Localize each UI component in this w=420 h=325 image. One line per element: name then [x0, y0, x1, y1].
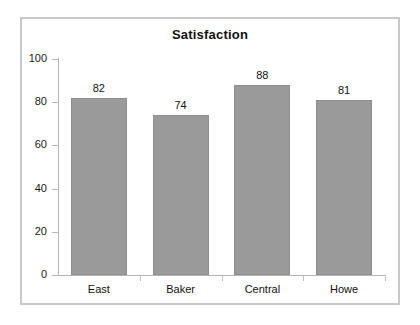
y-axis-tick-mark	[52, 275, 58, 276]
y-axis-tick-label: 100	[29, 52, 47, 64]
y-axis-tick-label: 0	[41, 268, 47, 280]
x-axis-separator-tick	[385, 275, 386, 281]
chart-title: Satisfaction	[22, 27, 398, 42]
x-axis-category-label: Howe	[303, 283, 385, 295]
bar[interactable]	[71, 98, 127, 275]
plot-area: 82748881	[58, 59, 384, 275]
x-axis-category-label: East	[58, 283, 140, 295]
x-axis-separator-tick	[222, 275, 223, 281]
bar[interactable]	[234, 85, 290, 275]
bar-value-label: 81	[316, 84, 372, 96]
bar[interactable]	[153, 115, 209, 275]
y-axis-tick-label: 40	[35, 182, 47, 194]
chart-frame: Satisfaction 020406080100 82748881 EastB…	[20, 17, 400, 305]
y-axis-tick-label: 60	[35, 138, 47, 150]
x-axis-category-label: Central	[222, 283, 304, 295]
x-axis-separator-tick	[303, 275, 304, 281]
y-axis-tick: 0	[52, 275, 58, 276]
bar[interactable]	[316, 100, 372, 275]
x-axis-category-label: Baker	[140, 283, 222, 295]
y-axis-tick-label: 80	[35, 95, 47, 107]
bar-value-label: 74	[153, 99, 209, 111]
bar-value-label: 88	[234, 69, 290, 81]
y-axis-tick-label: 20	[35, 225, 47, 237]
x-axis-separator-tick	[140, 275, 141, 281]
bar-value-label: 82	[71, 82, 127, 94]
